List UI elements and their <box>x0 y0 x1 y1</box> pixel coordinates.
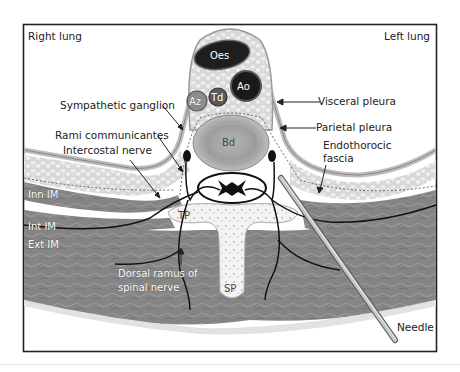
label-ao: Ao <box>237 81 250 92</box>
label-needle: Needle <box>397 321 434 333</box>
label-right-lung: Right lung <box>28 30 82 42</box>
label-left-lung: Left lung <box>384 30 430 42</box>
label-sympathetic-ganglion: Sympathetic ganglion <box>60 99 175 111</box>
label-dorsal-ramus-1: Dorsal ramus of <box>118 268 198 279</box>
label-visceral-pleura: Visceral pleura <box>318 95 396 107</box>
label-oes: Oes <box>210 50 229 61</box>
bottom-divider <box>0 364 460 365</box>
label-endothoracic-fascia-2: fascia <box>323 152 354 164</box>
label-endothoracic-fascia-1: Endothorocic <box>323 139 392 151</box>
label-td: Td <box>210 92 223 103</box>
label-parietal-pleura: Parietal pleura <box>316 121 392 133</box>
label-bd: Bd <box>222 137 235 148</box>
label-intercostal-nerve: Intercostal nerve <box>63 144 152 156</box>
label-sp: SP <box>224 283 236 294</box>
label-az: Az <box>189 96 201 107</box>
left-sympathetic-ganglion <box>268 150 276 162</box>
label-inn-im: Inn IM <box>28 189 58 200</box>
label-dorsal-ramus-2: spinal nerve <box>118 282 179 293</box>
label-ext-im: Ext IM <box>28 239 59 250</box>
right-sympathetic-ganglion <box>183 150 191 162</box>
label-int-im: Int IM <box>28 221 56 232</box>
label-rami-communicantes: Rami communicantes <box>55 129 169 141</box>
paravertebral-anatomy-diagram: Bd Oes Ao Az Td TP SP <box>0 0 460 372</box>
